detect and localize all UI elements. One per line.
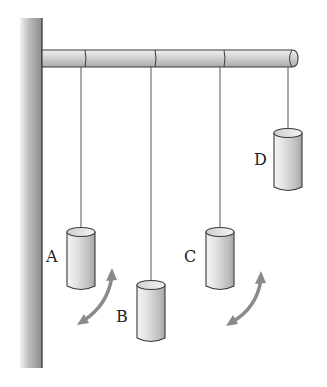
label-d: D bbox=[254, 152, 267, 168]
cylinder-b bbox=[137, 281, 165, 342]
cylinder-d bbox=[274, 129, 302, 191]
cylinder-c bbox=[206, 228, 234, 290]
pendulum-diagram: A B C D bbox=[0, 0, 327, 387]
cylinder-a bbox=[67, 228, 95, 290]
horizontal-rod bbox=[42, 50, 298, 67]
diagram-canvas bbox=[0, 0, 327, 387]
label-a: A bbox=[46, 249, 58, 265]
label-c: C bbox=[184, 249, 196, 265]
label-b: B bbox=[116, 309, 128, 325]
wall bbox=[20, 18, 42, 368]
